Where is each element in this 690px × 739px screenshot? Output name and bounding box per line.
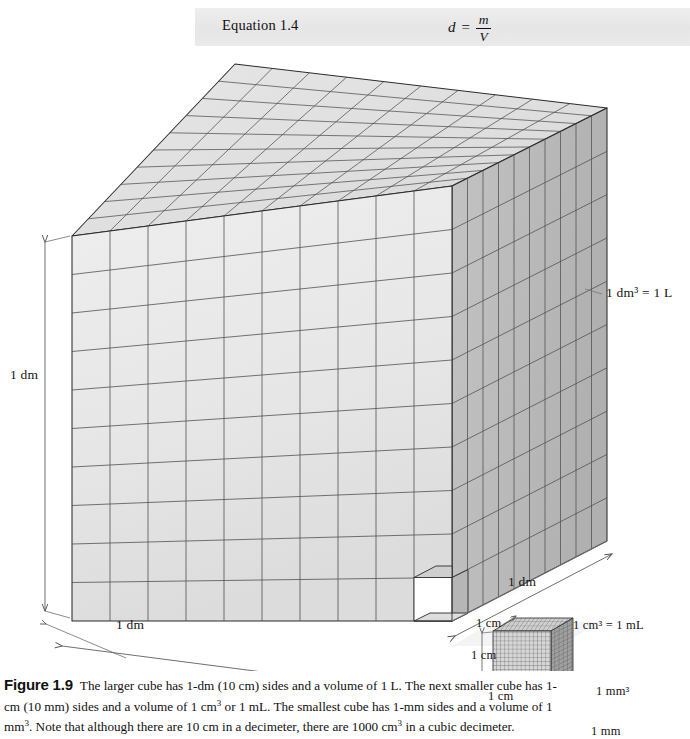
caption-figure-number: Figure 1.9 — [4, 676, 73, 693]
label-large-cube-depth: 1 dm — [508, 574, 536, 590]
label-large-cube-volume: 1 dm³ = 1 L — [606, 285, 672, 301]
equation-relation: = — [461, 19, 471, 36]
label-medium-cube-depth: 1 cm — [476, 616, 501, 631]
figure-illustration: 1 dm 1 dm 1 dm 1 dm³ = 1 L 1 cm 1 cm 1 c… — [0, 46, 690, 671]
label-large-cube-height: 1 dm — [10, 367, 38, 383]
equation-numerator: m — [476, 13, 492, 27]
label-medium-cube-volume: 1 cm³ = 1 mL — [573, 618, 644, 633]
large-cube — [72, 64, 607, 621]
large-cube-right-face — [452, 108, 607, 621]
label-small-cube-volume: 1 mm³ — [596, 684, 630, 699]
dim-line-dm-bottom — [62, 646, 432, 671]
label-large-cube-width: 1 dm — [116, 617, 144, 633]
caption-text-4: in a cubic decimeter. — [402, 719, 514, 734]
equation-lhs: d — [448, 19, 456, 36]
equation-denominator: V — [476, 30, 490, 44]
large-cube-front-face — [72, 186, 452, 621]
equation-number-label: Equation 1.4 — [222, 17, 299, 34]
cubes-diagram-svg — [0, 46, 690, 671]
label-medium-cube-height: 1 cm — [471, 648, 496, 663]
figure-caption: Figure 1.9The larger cube has 1-dm (10 c… — [4, 674, 564, 737]
medium-cube-front-face — [493, 631, 551, 671]
equation-band: Equation 1.4 d = m V — [195, 8, 690, 46]
equation-formula: d = m V — [448, 12, 491, 43]
label-small-cube-size: 1 mm — [591, 724, 621, 739]
caption-text-3: . Note that although there are 10 cm in … — [29, 719, 398, 734]
equation-fraction: m V — [476, 13, 492, 44]
large-cube-corner-notch — [414, 566, 468, 621]
